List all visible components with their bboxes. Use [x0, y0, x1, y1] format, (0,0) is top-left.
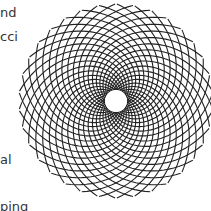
fibonacci-spiral-figure [0, 0, 211, 211]
spiral-center-hole [105, 90, 127, 112]
